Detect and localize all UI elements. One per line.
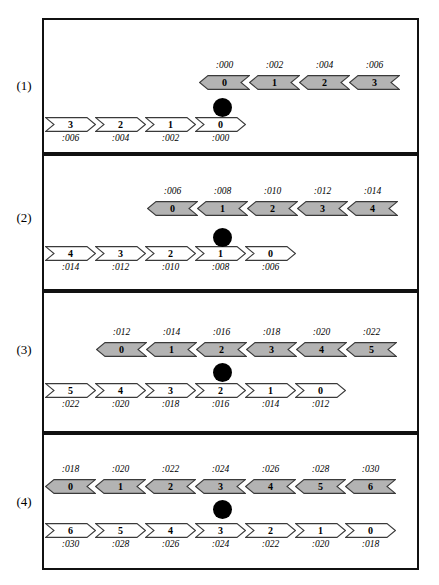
lower-cell-offset: :022 xyxy=(45,399,96,409)
lower-cell: 1:002 xyxy=(145,117,196,132)
upper-cell-offset: :000 xyxy=(199,60,250,70)
upper-cell-number: 1 xyxy=(249,75,300,90)
lower-cell: 2:022 xyxy=(245,523,296,538)
upper-cell-offset: :022 xyxy=(346,327,397,337)
lower-cell: 0:000 xyxy=(195,117,246,132)
upper-cell-offset: :006 xyxy=(349,60,400,70)
figure-canvas: 0:0001:0022:0043:0063:0062:0041:0020:000… xyxy=(0,0,439,585)
lower-cell-number: 0 xyxy=(195,117,246,132)
lower-cell-offset: :026 xyxy=(145,539,196,549)
lower-cell-offset: :014 xyxy=(245,399,296,409)
upper-cell-offset: :022 xyxy=(145,464,196,474)
lower-cell-number: 3 xyxy=(195,523,246,538)
upper-cell-offset: :012 xyxy=(96,327,147,337)
upper-cell-number: 0 xyxy=(147,201,198,216)
lower-cell: 1:014 xyxy=(245,383,296,398)
lower-cell: 4:014 xyxy=(45,246,96,261)
upper-cell-number: 2 xyxy=(299,75,350,90)
panel-4: 0:0181:0202:0223:0244:0265:0286:0306:030… xyxy=(42,433,419,570)
lower-cell-number: 5 xyxy=(45,383,96,398)
lower-cell-number: 0 xyxy=(245,246,296,261)
upper-cell-number: 1 xyxy=(197,201,248,216)
lower-cell-offset: :020 xyxy=(295,539,346,549)
lower-cell-number: 3 xyxy=(95,246,146,261)
lower-cell: 5:028 xyxy=(95,523,146,538)
lower-cell: 1:020 xyxy=(295,523,346,538)
black-dot-marker xyxy=(213,500,232,519)
upper-cell-number: 3 xyxy=(349,75,400,90)
black-dot-marker xyxy=(213,98,232,117)
lower-cell-number: 5 xyxy=(95,523,146,538)
upper-cell: 3:018 xyxy=(246,342,297,357)
upper-cell-number: 0 xyxy=(96,342,147,357)
upper-cell-number: 2 xyxy=(247,201,298,216)
lower-cell: 2:010 xyxy=(145,246,196,261)
lower-cell-offset: :020 xyxy=(95,399,146,409)
upper-cell: 5:028 xyxy=(295,479,346,494)
lower-cell-number: 2 xyxy=(95,117,146,132)
upper-cell-offset: :004 xyxy=(299,60,350,70)
upper-cell-number: 1 xyxy=(95,479,146,494)
upper-cell-number: 5 xyxy=(346,342,397,357)
upper-cell-number: 0 xyxy=(199,75,250,90)
upper-cell-offset: :006 xyxy=(147,186,198,196)
lower-cell-offset: :002 xyxy=(145,133,196,143)
lower-cell-offset: :016 xyxy=(195,399,246,409)
upper-cell-offset: :002 xyxy=(249,60,300,70)
upper-cell: 0:018 xyxy=(45,479,96,494)
upper-cell-offset: :024 xyxy=(195,464,246,474)
upper-cell: 0:000 xyxy=(199,75,250,90)
lower-cell-offset: :028 xyxy=(95,539,146,549)
upper-cell-offset: :028 xyxy=(295,464,346,474)
lower-cell: 3:012 xyxy=(95,246,146,261)
lower-cell-offset: :012 xyxy=(95,262,146,272)
upper-cell: 4:014 xyxy=(347,201,398,216)
upper-cell: 2:016 xyxy=(196,342,247,357)
upper-cell-number: 3 xyxy=(297,201,348,216)
upper-cell-offset: :020 xyxy=(95,464,146,474)
upper-cell-number: 4 xyxy=(347,201,398,216)
upper-cell-number: 6 xyxy=(345,479,396,494)
lower-cell-offset: :012 xyxy=(295,399,346,409)
upper-cell-offset: :018 xyxy=(45,464,96,474)
lower-cell-offset: :024 xyxy=(195,539,246,549)
upper-cell-offset: :018 xyxy=(246,327,297,337)
lower-cell-number: 4 xyxy=(95,383,146,398)
black-dot-marker xyxy=(213,363,232,382)
lower-cell-number: 2 xyxy=(245,523,296,538)
lower-cell-number: 3 xyxy=(45,117,96,132)
upper-cell: 4:026 xyxy=(245,479,296,494)
panel-label-4: (4) xyxy=(8,494,40,510)
upper-cell-offset: :014 xyxy=(146,327,197,337)
upper-cell: 1:020 xyxy=(95,479,146,494)
lower-cell-offset: :006 xyxy=(245,262,296,272)
lower-cell: 4:020 xyxy=(95,383,146,398)
lower-cell-number: 1 xyxy=(195,246,246,261)
lower-cell: 3:006 xyxy=(45,117,96,132)
lower-cell: 0:018 xyxy=(345,523,396,538)
lower-cell: 0:006 xyxy=(245,246,296,261)
upper-cell-number: 2 xyxy=(196,342,247,357)
lower-cell-number: 0 xyxy=(295,383,346,398)
upper-cell-number: 3 xyxy=(195,479,246,494)
upper-cell-offset: :020 xyxy=(296,327,347,337)
lower-cell-number: 2 xyxy=(195,383,246,398)
upper-cell: 4:020 xyxy=(296,342,347,357)
upper-cell-offset: :010 xyxy=(247,186,298,196)
panel-label-3: (3) xyxy=(8,342,40,358)
upper-cell-number: 5 xyxy=(295,479,346,494)
lower-cell: 3:024 xyxy=(195,523,246,538)
lower-cell-number: 1 xyxy=(145,117,196,132)
panel-label-1: (1) xyxy=(8,78,40,94)
panel-2: 0:0061:0082:0103:0124:0144:0143:0122:010… xyxy=(42,154,419,291)
panel-label-2: (2) xyxy=(8,210,40,226)
lower-cell-offset: :014 xyxy=(45,262,96,272)
lower-cell: 1:008 xyxy=(195,246,246,261)
upper-cell: 3:012 xyxy=(297,201,348,216)
upper-cell: 3:024 xyxy=(195,479,246,494)
lower-cell: 2:004 xyxy=(95,117,146,132)
lower-cell-offset: :018 xyxy=(145,399,196,409)
lower-cell: 6:030 xyxy=(45,523,96,538)
lower-cell-offset: :022 xyxy=(245,539,296,549)
upper-cell: 2:022 xyxy=(145,479,196,494)
